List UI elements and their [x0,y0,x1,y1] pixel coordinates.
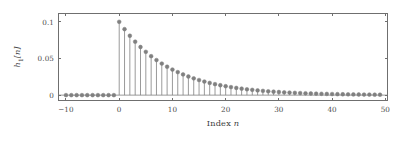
stem-marker [101,93,105,97]
stem-marker [165,65,169,69]
stem-marker [75,93,79,97]
stem-marker [288,91,292,95]
y-tick-mark [58,58,61,59]
stem-marker [330,92,334,96]
stem-marker [277,90,281,94]
y-tick-label: 0 [49,91,54,100]
x-tick-mark [278,98,279,101]
stem-marker [107,93,111,97]
x-tick-mark-top [385,13,386,16]
y-tick-mark-right [385,21,388,22]
stem-marker [325,92,329,96]
stem-marker [197,78,201,82]
stem-marker [234,86,238,90]
x-tick-label: 40 [327,105,336,114]
stem-marker [304,91,308,95]
stem-marker [346,92,350,96]
x-tick-mark-top [119,13,120,16]
x-tick-label: 30 [274,105,283,114]
stem-marker [320,92,324,96]
x-tick-mark-top [278,13,279,16]
stem-marker [261,89,265,93]
stem-marker [64,93,68,97]
stem-marker [240,87,244,91]
stem-marker [85,93,89,97]
x-tick-label: 50 [381,105,390,114]
x-tick-mark [65,98,66,101]
stem-marker [112,93,116,97]
stem-marker [218,83,222,87]
x-axis-label-text: Index [207,118,234,128]
stem-series [58,13,388,101]
stem-marker [213,82,217,86]
x-axis-label: Index n [58,118,388,128]
stem-marker [293,91,297,95]
x-tick-label: 0 [117,105,122,114]
x-tick-mark-top [172,13,173,16]
stem-marker [176,70,180,74]
stem-marker [133,40,137,44]
stem-marker [309,92,313,96]
stem-marker [171,68,175,72]
x-axis-tick-labels: −1001020304050 [58,105,388,117]
x-tick-mark [385,98,386,101]
stem-marker [181,73,185,77]
x-tick-label: −10 [58,105,73,114]
stem-marker [160,62,164,66]
x-tick-mark-top [65,13,66,16]
stem-marker [373,93,377,97]
y-tick-mark [58,95,61,96]
stem-marker [362,93,366,97]
x-tick-mark-top [332,13,333,16]
stem-marker [250,88,254,92]
x-tick-mark-top [225,13,226,16]
x-tick-mark [225,98,226,101]
stem-marker [208,81,212,85]
stem-marker [149,54,153,58]
stem-marker [378,93,382,97]
stem-marker [96,93,100,97]
x-tick-mark [172,98,173,101]
stem-marker [336,92,340,96]
stem-marker [272,90,276,94]
stem-marker [298,91,302,95]
x-tick-label: 20 [221,105,230,114]
y-tick-label: 0.05 [38,54,54,63]
stem-marker [224,84,228,88]
stem-marker [282,90,286,94]
stem-marker [256,88,260,92]
stem-marker [144,50,148,54]
stem-marker [266,89,270,93]
stem-marker [192,76,196,80]
stem-marker [187,75,191,79]
y-axis-tick-labels: 00.050.1 [0,13,54,101]
x-axis-label-italic: n [234,118,239,128]
x-tick-label: 10 [168,105,177,114]
stem-marker [202,80,206,84]
stem-marker [69,93,73,97]
y-tick-mark-right [385,95,388,96]
stem-marker [128,34,132,38]
x-tick-mark [119,98,120,101]
y-tick-mark [58,21,61,22]
stem-marker [155,58,159,62]
stem-marker [314,92,318,96]
stem-marker [229,85,233,89]
stem-marker [352,93,356,97]
stem-marker [341,92,345,96]
stem-marker [245,87,249,91]
stem-marker [117,20,121,24]
stem-marker [80,93,84,97]
stem-markers [64,20,382,97]
x-tick-mark [332,98,333,101]
y-tick-label: 0.1 [42,17,54,26]
stem-marker [367,93,371,97]
stem-marker [123,27,127,31]
plot-area [58,13,388,101]
stem-marker [139,45,143,49]
y-tick-mark-right [385,58,388,59]
stem-plot-figure: h1[n] 00.050.1 −1001020304050 Index n [0,0,408,147]
stem-marker [357,93,361,97]
stem-marker [91,93,95,97]
stem-lines [119,22,380,95]
